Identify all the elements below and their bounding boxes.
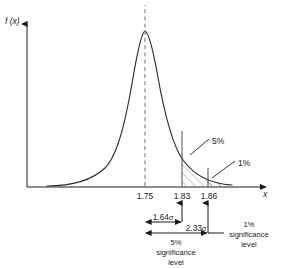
one-percent-annotation-line1: 1% [244,220,255,229]
shaded-regions [182,28,232,187]
measure-label-164-unit: σ [169,213,174,222]
five-percent-annotation-line3: level [168,258,184,267]
one-percent-region [208,28,232,187]
one-percent-label: 1% [238,158,251,168]
five-percent-annotation-line2: significance [156,248,196,257]
measure-label-164: 1.64σ [153,213,174,222]
measure-label-233-value: 2.33 [186,224,202,233]
measure-label-233-unit: σ [202,224,207,233]
x-axis-label: x [262,189,268,199]
tick-label-186: 1.86 [201,191,218,201]
measure-label-233: 2.33σ [186,224,207,233]
axes-group [27,24,266,187]
five-percent-annotation-line1: 5% [171,238,182,247]
one-percent-annotation-leader [208,222,224,233]
five-percent-annotation: 5% significance level [156,238,196,267]
tick-label-175: 1.75 [137,191,154,201]
distribution-curve [47,31,232,186]
one-percent-leader-line [212,161,235,178]
five-percent-leader-line [190,139,209,155]
tick-label-183: 1.83 [174,191,191,201]
one-percent-annotation-line3: level [241,240,257,249]
measure-label-164-value: 1.64 [153,213,169,222]
one-percent-annotation: 1% significance level [229,220,269,249]
five-percent-region [182,28,232,187]
five-percent-label: 5% [212,136,225,146]
normal-distribution-significance-chart: f (x) x 1.75 1.83 1.86 5% 1% 1.64σ 2.33σ… [0,0,281,268]
one-percent-annotation-line2: significance [229,230,269,239]
y-axis-label: f (x) [5,16,20,26]
